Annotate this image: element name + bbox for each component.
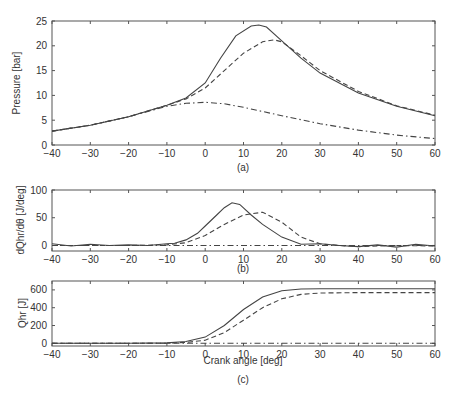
x-tick-label: 40 [353,349,365,360]
plot-frame [52,190,435,251]
y-tick-label: 100 [30,185,47,196]
x-tick-label: 20 [276,148,288,159]
x-tick-label: −30 [82,349,99,360]
y-tick-label: 50 [36,212,48,223]
x-tick-label: −20 [120,148,137,159]
x-tick-label: −10 [158,148,175,159]
x-tick-label: 40 [353,148,365,159]
x-tick-label: −30 [82,254,99,265]
x-tick-label: 30 [315,148,327,159]
series-motoring [52,102,435,138]
y-tick-label: 0 [41,140,47,151]
panel-a-pressure: −40−30−20−1001020304050600510152025 [36,16,441,160]
x-tick-label: 50 [391,254,403,265]
x-tick-label: −20 [120,254,137,265]
panel-b-ylabel: dQhr/dθ [J/deg] [15,185,26,254]
series-model [52,40,435,131]
x-tick-label: 10 [238,148,250,159]
panel-c-xlabel: Crank angle [deg] [204,355,283,366]
x-tick-label: −10 [158,254,175,265]
x-tick-label: 60 [429,254,441,265]
x-tick-label: −20 [120,349,137,360]
y-tick-label: 400 [30,302,47,313]
plot-frame [52,21,435,145]
panel-c-ylabel: Qhr [J] [17,298,28,328]
x-tick-label: 50 [391,349,403,360]
y-tick-label: 200 [30,320,47,331]
x-tick-label: −40 [44,254,61,265]
y-tick-label: 20 [36,40,48,51]
y-tick-label: 0 [41,240,47,251]
x-tick-label: 0 [202,254,208,265]
x-tick-label: 0 [202,148,208,159]
x-tick-label: −10 [158,349,175,360]
x-tick-label: 50 [391,148,403,159]
x-tick-label: 60 [429,148,441,159]
plot-frame [52,281,435,346]
figure: −40−30−20−1001020304050600510152025 Pres… [0,0,457,396]
panel-b-caption: (b) [237,263,249,274]
y-tick-label: 5 [41,115,47,126]
x-tick-label: 20 [276,254,288,265]
x-tick-label: 40 [353,254,365,265]
x-tick-label: 30 [315,349,327,360]
series-measured [52,25,435,131]
panel-c-caption: (c) [237,374,249,385]
series-measured [52,289,435,344]
x-tick-label: 30 [315,254,327,265]
y-tick-label: 10 [36,90,48,101]
x-tick-label: −30 [82,148,99,159]
y-tick-label: 0 [41,338,47,349]
y-tick-label: 25 [36,16,48,27]
panel-a-ylabel: Pressure [bar] [11,51,22,114]
series-model [52,293,435,344]
panel-a-caption: (a) [237,162,249,173]
y-tick-label: 600 [30,284,47,295]
series-measured [52,203,435,247]
panel-b-heat-release-rate: −40−30−20−100102030405060050100 [30,185,441,266]
y-tick-label: 15 [36,65,48,76]
x-tick-label: −40 [44,349,61,360]
x-tick-label: 60 [429,349,441,360]
panel-c-cumulative-heat-release: −40−30−20−1001020304050600200400600 [30,281,441,360]
series-model [52,212,435,246]
